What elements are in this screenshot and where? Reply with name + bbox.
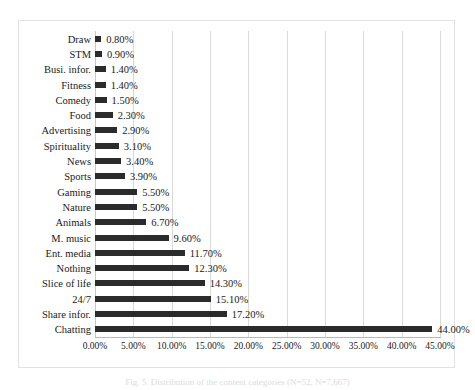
x-tick-label: 30.00% [310,340,339,352]
bar [95,326,432,332]
bar [95,204,137,210]
bar-value-label: 1.40% [106,79,138,90]
bar-value-label: 5.50% [137,186,169,197]
bar [95,66,106,72]
bar-track: 44.00% [95,322,454,337]
category-label: Gaming [19,186,91,197]
bar-row: 24/715.10% [19,291,454,306]
bar-row: Ent. media11.70% [19,245,454,260]
x-tick-label: 35.00% [349,340,378,352]
category-label: Food [19,110,91,121]
figure-caption: Fig. 5. Distribution of the content cate… [0,377,475,388]
bar-track: 11.70% [95,245,454,260]
category-label: Ent. media [19,247,91,258]
bar-track: 15.10% [95,291,454,306]
bar-value-label: 15.10% [211,293,248,304]
bar-row: Share infor.17.20% [19,306,454,321]
category-label: Sports [19,171,91,182]
bar [95,82,106,88]
bar-value-label: 11.70% [185,247,222,258]
bar-value-label: 2.30% [113,110,145,121]
bar [95,311,227,317]
category-label: Animals [19,217,91,228]
bar [95,280,205,286]
figure-frame: Draw0.80%STM0.90%Busi. infor.1.40%Fitnes… [18,20,455,368]
bar-track: 3.40% [95,153,454,168]
category-label: Spirituality [19,140,91,151]
bar [95,250,185,256]
bar-row: Busi. infor.1.40% [19,62,454,77]
category-label: M. music [19,232,91,243]
x-tick-label: 40.00% [387,340,416,352]
bar [95,189,137,195]
bar-value-label: 3.90% [125,171,157,182]
bar [95,265,189,271]
bar-value-label: 1.50% [107,94,139,105]
bar-value-label: 9.60% [169,232,201,243]
bar-track: 1.50% [95,92,454,107]
category-label: 24/7 [19,293,91,304]
category-label: Slice of life [19,278,91,289]
bar [95,51,102,57]
category-label: News [19,156,91,167]
bar-value-label: 2.90% [117,125,149,136]
x-tick-label: 25.00% [272,340,301,352]
bar-track: 14.30% [95,276,454,291]
bar-row: Comedy1.50% [19,92,454,107]
bar-track: 1.40% [95,62,454,77]
bar-value-label: 6.70% [146,217,178,228]
bar-track: 0.80% [95,31,454,46]
bar-value-label: 3.10% [119,140,151,151]
bar-track: 3.90% [95,169,454,184]
bar-track: 5.50% [95,199,454,214]
bar [95,143,119,149]
bar-track: 5.50% [95,184,454,199]
bar-value-label: 12.30% [189,263,226,274]
bar-track: 0.90% [95,46,454,61]
bar-row: Spirituality3.10% [19,138,454,153]
bar [95,219,146,225]
bar-track: 1.40% [95,77,454,92]
bar-row: Nature5.50% [19,199,454,214]
bar-chart: Draw0.80%STM0.90%Busi. infor.1.40%Fitnes… [19,21,454,367]
bar-value-label: 44.00% [432,324,469,335]
bar-track: 12.30% [95,261,454,276]
bar-row: Gaming5.50% [19,184,454,199]
x-tick-label: 20.00% [234,340,263,352]
bar [95,235,169,241]
bar-track: 3.10% [95,138,454,153]
bar-value-label: 0.80% [101,33,133,44]
x-tick-label: 10.00% [157,340,186,352]
x-tick-label: 0.00% [83,340,108,352]
bar-row: Food2.30% [19,108,454,123]
bar-row: Slice of life14.30% [19,276,454,291]
category-label: Draw [19,33,91,44]
category-label: Busi. infor. [19,64,91,75]
bar [95,158,121,164]
x-axis-line [95,337,441,338]
bar-value-label: 1.40% [106,64,138,75]
bar-value-label: 17.20% [227,309,264,320]
bar [95,173,125,179]
x-axis-tick-labels: 0.00%5.00%10.00%15.00%20.00%25.00%30.00%… [95,340,440,356]
category-label: Nature [19,201,91,212]
bar-row: Animals6.70% [19,215,454,230]
category-label: Share infor. [19,309,91,320]
category-label: Advertising [19,125,91,136]
bar-row: Fitness1.40% [19,77,454,92]
category-label: Chatting [19,324,91,335]
x-tick-label: 15.00% [195,340,224,352]
bar-row: Sports3.90% [19,169,454,184]
category-label: Fitness [19,79,91,90]
bar-track: 9.60% [95,230,454,245]
bar [95,296,211,302]
category-label: Comedy [19,94,91,105]
x-tick-label: 45.00% [425,340,454,352]
bar [95,127,117,133]
bar-track: 2.30% [95,108,454,123]
bar-row: STM0.90% [19,46,454,61]
bar-track: 17.20% [95,306,454,321]
bar-track: 2.90% [95,123,454,138]
bar-value-label: 0.90% [102,48,134,59]
bar-track: 6.70% [95,215,454,230]
